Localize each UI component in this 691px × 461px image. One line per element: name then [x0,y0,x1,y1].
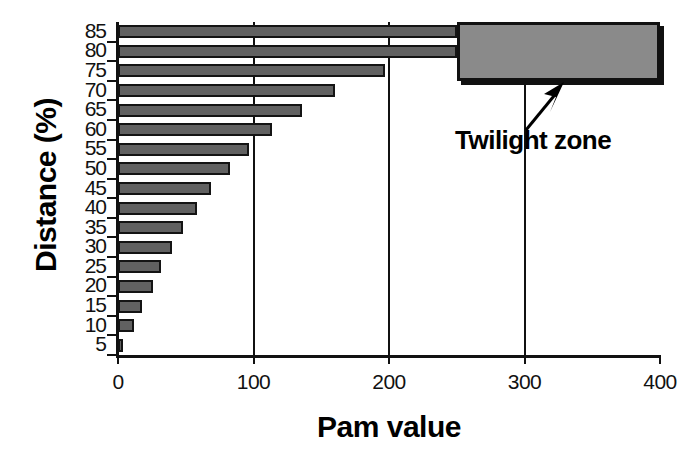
y-tick [107,158,118,160]
bar [118,319,134,332]
bar [118,300,142,313]
y-tick [107,139,118,141]
bar [118,202,197,215]
bar [118,280,153,293]
y-tick [107,119,118,121]
bar [118,123,272,136]
y-tick [107,236,118,238]
bar [118,162,230,175]
x-tick [659,355,661,364]
y-tick [107,60,118,62]
bar [118,45,457,58]
bar [118,241,172,254]
bar [118,104,302,117]
bar [118,260,161,273]
bar [118,221,183,234]
x-tick-label: 100 [224,370,284,394]
x-axis-title: Pam value [118,410,660,444]
x-tick [253,355,255,364]
y-tick [107,315,118,317]
y-tick [107,256,118,258]
y-tick [107,80,118,82]
bar [118,64,385,77]
x-tick-label: 300 [495,370,555,394]
y-tick [107,354,118,356]
plot-area: 0100200300400 85807570656055504540353025… [118,22,660,355]
bar [118,143,249,156]
chart-figure: Distance (%) Pam value 0100200300400 858… [0,0,691,461]
y-tick [107,334,118,336]
twilight-zone-label: Twilight zone [455,125,611,156]
y-tick [107,41,118,43]
bar [118,25,457,38]
y-tick [107,178,118,180]
x-tick [524,355,526,364]
y-tick-label: 5 [48,332,106,356]
x-tick-label: 200 [359,370,419,394]
bar [118,84,335,97]
y-tick [107,197,118,199]
x-tick [117,355,119,364]
y-tick [107,295,118,297]
y-tick [107,217,118,219]
y-tick [107,99,118,101]
bar [118,339,123,352]
x-tick [388,355,390,364]
x-tick-label: 0 [88,370,148,394]
y-tick [107,276,118,278]
bar [118,182,211,195]
twilight-zone-region [457,22,660,81]
x-tick-label: 400 [630,370,690,394]
gridline [388,22,390,355]
